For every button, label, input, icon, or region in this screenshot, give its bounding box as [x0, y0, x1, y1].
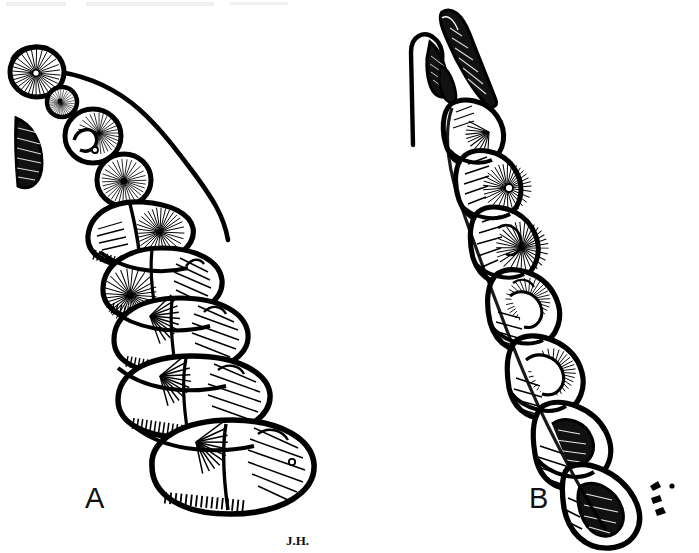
- figure-canvas: A J.H.: [0, 0, 699, 553]
- panel-a-label: A: [85, 482, 105, 514]
- panel-a-segment-9: [152, 420, 314, 514]
- panel-b-label: B: [529, 482, 548, 514]
- engraver-signature: J.H.: [286, 533, 309, 548]
- engraving-illustration: A J.H.: [0, 0, 699, 553]
- panel-a-segment-4: [97, 154, 151, 206]
